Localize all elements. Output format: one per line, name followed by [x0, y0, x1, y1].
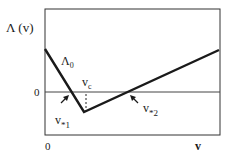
arrow-v1-icon — [61, 95, 69, 103]
x-origin-label: 0 — [45, 140, 51, 152]
x-axis-label: v — [195, 139, 201, 153]
y-zero-label: 0 — [34, 86, 40, 98]
v1-label: v*1 — [55, 113, 70, 130]
plot-frame — [45, 9, 220, 135]
arrow-v2-icon — [130, 95, 138, 103]
vc-label: vc — [82, 75, 92, 91]
lambda-curve — [45, 49, 219, 112]
v2-label: v*2 — [143, 101, 158, 118]
chart: Λ (v) 0 0 v Λ0 vc v*1 v*2 — [0, 0, 231, 157]
y-axis-label: Λ (v) — [6, 20, 34, 35]
lambda0-label: Λ0 — [61, 54, 74, 70]
